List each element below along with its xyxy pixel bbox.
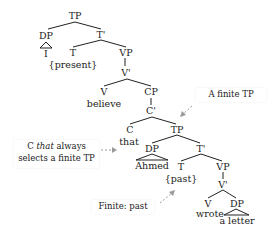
callout-finite-tp: A finite TP xyxy=(196,88,266,102)
branch-vbar2-v xyxy=(208,190,223,198)
node-v-1: V xyxy=(101,87,108,97)
word-i: I xyxy=(44,49,48,59)
branch-tp-dp xyxy=(48,22,75,29)
node-vp-2: VP xyxy=(216,162,229,172)
node-tp-root: TP xyxy=(69,11,82,21)
branch-vbar2-dp xyxy=(223,190,236,198)
branch-tp-tbar xyxy=(75,22,101,29)
node-tbar-2: T' xyxy=(197,144,206,154)
node-dp-embedded: DP xyxy=(145,144,159,154)
callout-that-italic: that xyxy=(36,141,53,151)
node-dp-subject: DP xyxy=(39,31,53,41)
callout-finite-past-text: Finite: past xyxy=(98,201,147,211)
node-t-2: T xyxy=(178,162,184,172)
branch-tbar-t xyxy=(73,40,101,47)
callout-c-label: C xyxy=(27,141,34,151)
node-vbar-1: V' xyxy=(121,68,130,78)
branch-cbar-c xyxy=(130,117,152,124)
word-that: that xyxy=(119,137,138,147)
arrowhead-c-that xyxy=(112,147,117,153)
node-cbar: C' xyxy=(146,106,156,116)
feature-past: {past} xyxy=(165,174,198,184)
branch-tbar-vp xyxy=(101,40,126,47)
word-believe: believe xyxy=(87,99,121,109)
callout-finite-tp-text: A finite TP xyxy=(208,89,253,99)
branch-cbar-tp xyxy=(152,117,176,124)
branch-tp2-dp xyxy=(152,135,177,143)
branch-tbar2-t xyxy=(181,154,201,161)
callout-c-that-line1: C that always xyxy=(14,140,99,152)
branch-tbar2-vp xyxy=(201,154,222,161)
node-c: C xyxy=(126,125,133,135)
branch-tp2-tbar xyxy=(177,135,200,143)
callout-c-that-line2: selects a finite TP xyxy=(14,152,99,164)
branch-vbar-cp xyxy=(127,79,151,86)
arrow-finite-past xyxy=(160,193,172,203)
callout-c-that: C that always selects a finite TP xyxy=(14,140,99,168)
node-tp-embedded: TP xyxy=(171,125,184,135)
callout-finite-past: Finite: past xyxy=(92,200,154,214)
node-t-1: T xyxy=(70,48,76,58)
node-dp-object: DP xyxy=(230,199,244,209)
node-vbar-2: V' xyxy=(218,180,227,190)
branch-vbar-v xyxy=(104,79,127,86)
arrow-finite-tp xyxy=(183,106,192,114)
feature-present: {present} xyxy=(49,60,98,70)
callout-always: always xyxy=(57,141,86,151)
node-cp: CP xyxy=(144,87,158,97)
node-vp-1: VP xyxy=(119,48,132,58)
word-a-letter: a letter xyxy=(219,216,254,226)
word-ahmed: Ahmed xyxy=(135,161,169,171)
node-tbar-1: T' xyxy=(97,30,106,40)
